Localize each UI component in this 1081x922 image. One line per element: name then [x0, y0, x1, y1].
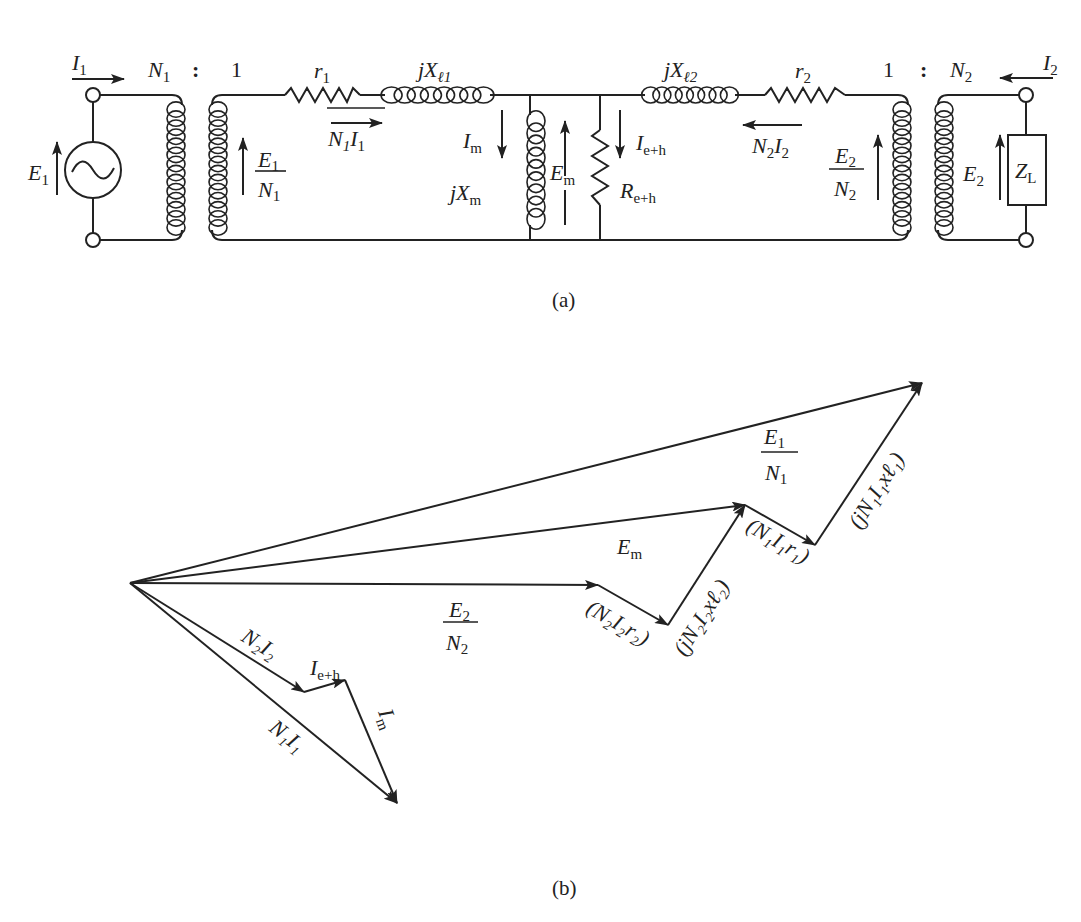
label-re+h: Re+h [619, 178, 657, 206]
svg-text:N2: N2 [445, 630, 468, 657]
svg-text:E2: E2 [448, 597, 470, 624]
label-e2: E2 [962, 161, 984, 189]
magnetizing-reactance-coil [527, 111, 545, 230]
phasor-labels: E1 N1 Em E2 N2 (N₂I₂r₂) (jN₂I₂xℓ₂) (N₁I₁… [237, 424, 910, 757]
label-i1: I1 [71, 50, 87, 78]
secondary-winding-coil [209, 102, 227, 235]
phasor-diagram [130, 383, 922, 803]
label-ratio-colon-1: : [192, 57, 199, 82]
resistor-r2 [765, 88, 845, 102]
label-jxl2: jXℓ2 [661, 57, 698, 85]
svg-text:E1: E1 [763, 424, 785, 451]
ideal-transformer2-right-coil [935, 102, 953, 235]
label-phasor-n2i2r2: (N₂I₂r₂) [583, 595, 655, 651]
label-jxm: jXm [447, 180, 482, 208]
label-phasor-im: Im [370, 704, 403, 733]
resistor-re+h [592, 130, 608, 205]
caption-a: (a) [552, 288, 575, 312]
label-ie+h: Ie+h [635, 130, 666, 158]
label-phasor-ie+h: Ie+h [309, 655, 340, 683]
equivalent-circuit: I1 N1 : 1 E1 E1 N1 r1 jXℓ1 N1I1 Im jXm E… [27, 50, 1058, 247]
label-phasor-n2i2: N₂I₂ [237, 623, 283, 665]
svg-text:N1: N1 [257, 177, 280, 204]
label-r2: r2 [795, 58, 811, 86]
label-phasor-e2-n2: E2 N2 [443, 597, 478, 657]
leakage-inductor-xl1 [381, 87, 494, 103]
label-ratio-one-2: 1 [883, 57, 894, 82]
label-em: Em [549, 160, 575, 188]
leakage-inductor-xl2 [642, 87, 739, 103]
label-phasor-jn2i2xl2: (jN₂I₂xℓ₂) [668, 575, 734, 660]
label-n2: N2 [949, 57, 972, 85]
label-jxl1: jXℓ1 [415, 57, 451, 85]
label-phasor-em: Em [616, 534, 642, 562]
label-im: Im [462, 128, 482, 156]
label-r1: r1 [314, 58, 330, 86]
svg-text:E2: E2 [834, 143, 856, 170]
label-e1-over-n1: E1 N1 [255, 147, 286, 204]
label-phasor-e1-n1: E1 N1 [761, 424, 798, 487]
phasor-n2i2 [130, 583, 304, 692]
phasor-n1i1 [130, 583, 397, 803]
resistor-r1 [285, 88, 360, 102]
label-i2: I2 [1042, 50, 1058, 78]
svg-text:N2: N2 [833, 176, 856, 203]
phasor-e2-n2 [130, 583, 598, 585]
label-e2-over-n2: E2 N2 [829, 143, 864, 203]
label-n1: N1 [147, 57, 170, 85]
terminal-primary-top [86, 88, 100, 102]
figure-canvas: I1 N1 : 1 E1 E1 N1 r1 jXℓ1 N1I1 Im jXm E… [0, 0, 1081, 922]
primary-winding-coil [167, 102, 185, 235]
label-n1i1: N1I1 [327, 126, 365, 154]
ac-source-icon [65, 142, 121, 198]
label-ratio-colon-2: : [920, 57, 927, 82]
ideal-transformer2-left-coil [893, 102, 911, 235]
label-phasor-n1i1r1: (N₁I₁r₁) [743, 513, 815, 569]
svg-text:N1: N1 [764, 460, 787, 487]
label-ratio-one-1: 1 [231, 57, 242, 82]
svg-text:E1: E1 [257, 147, 279, 174]
phasor-em [130, 505, 745, 583]
label-e1: E1 [27, 160, 49, 188]
phasor-im [345, 680, 397, 803]
label-phasor-jn1i1xl1: (jN₁I₁xℓ₁) [843, 448, 909, 533]
label-zl: ZL [1015, 158, 1036, 186]
terminal-secondary-top [1019, 88, 1033, 102]
caption-b: (b) [552, 876, 577, 900]
label-n2i2: N2I2 [751, 133, 789, 161]
label-phasor-n1i1: N₁I₁ [264, 714, 310, 757]
terminal-secondary-bottom [1019, 233, 1033, 247]
terminal-primary-bottom [86, 233, 100, 247]
